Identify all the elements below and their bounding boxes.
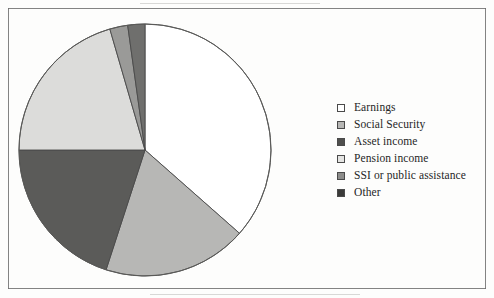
figure-frame: Earnings Social Security Asset income Pe…	[0, 0, 494, 298]
legend-label-earnings: Earnings	[354, 101, 396, 114]
legend-label-pension-income: Pension income	[354, 152, 429, 165]
legend-label-social-security: Social Security	[354, 118, 425, 131]
legend-item-earnings[interactable]: Earnings	[337, 99, 487, 116]
pie-chart-svg	[18, 23, 272, 277]
scan-artifact-top	[140, 3, 320, 4]
legend-swatch-pension-income	[337, 155, 345, 163]
legend-item-ssi-public-assistance[interactable]: SSI or public assistance	[337, 167, 487, 184]
legend-swatch-asset-income	[337, 138, 345, 146]
scan-artifact-bottom	[150, 294, 360, 295]
frame-border-left	[8, 8, 9, 289]
frame-border-bottom	[8, 288, 486, 289]
legend-swatch-other	[337, 189, 345, 197]
legend-label-asset-income: Asset income	[354, 135, 417, 148]
pie-chart	[18, 23, 272, 277]
legend-label-ssi-public-assistance: SSI or public assistance	[354, 169, 466, 182]
legend-item-other[interactable]: Other	[337, 184, 487, 201]
legend-label-other: Other	[354, 186, 381, 199]
legend-swatch-ssi-public-assistance	[337, 172, 345, 180]
frame-border-top	[8, 8, 486, 9]
pie-slice-group	[19, 24, 271, 276]
legend-swatch-earnings	[337, 104, 345, 112]
legend-item-social-security[interactable]: Social Security	[337, 116, 487, 133]
legend-item-pension-income[interactable]: Pension income	[337, 150, 487, 167]
legend-swatch-social-security	[337, 121, 345, 129]
chart-legend: Earnings Social Security Asset income Pe…	[337, 99, 487, 201]
legend-item-asset-income[interactable]: Asset income	[337, 133, 487, 150]
